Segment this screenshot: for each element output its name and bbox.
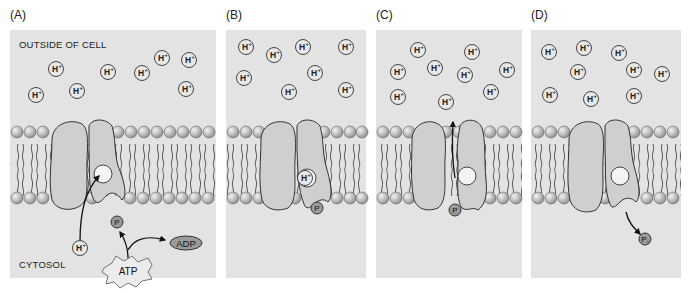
binding-site-a xyxy=(94,165,112,183)
proton-bound-b xyxy=(298,171,313,186)
phosphate-c xyxy=(449,204,461,216)
svg-text:P: P xyxy=(641,235,646,244)
protons-outside-b xyxy=(237,40,354,100)
inorganic-phosphate-d: P i xyxy=(639,233,651,245)
svg-text:i: i xyxy=(648,240,649,245)
protons-outside-d xyxy=(542,41,670,107)
membrane-c xyxy=(376,126,522,204)
phosphate-release-arrow xyxy=(120,232,128,258)
adp-arrow xyxy=(128,238,165,250)
svg-text:ADP: ADP xyxy=(176,238,196,249)
adp-symbol: ADP xyxy=(170,236,202,250)
proton-cytosol-a xyxy=(73,241,88,256)
phosphate-a xyxy=(111,216,123,228)
svg-text:ATP: ATP xyxy=(119,266,138,277)
phosphate-leave-arrow xyxy=(626,212,640,234)
protons-outside-a xyxy=(29,51,197,103)
phosphate-b xyxy=(311,202,323,214)
atp-symbol: ATP xyxy=(102,256,152,288)
diagram-canvas: H + P xyxy=(0,0,694,293)
protons-outside-c xyxy=(391,43,515,110)
